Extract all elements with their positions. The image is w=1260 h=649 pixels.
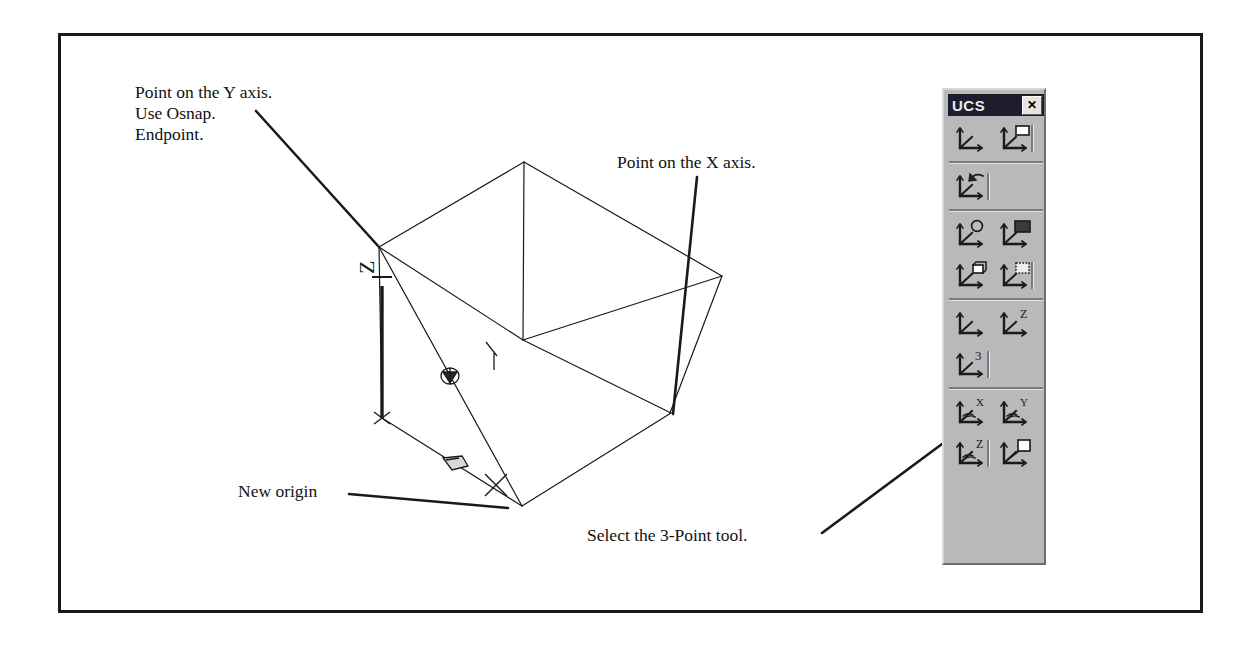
toolbar-separator [949,387,1043,390]
ucs-origin-button[interactable] [948,303,992,344]
box-edge [523,276,722,340]
leader-lines [256,111,942,533]
note-x-axis-leader [673,177,697,414]
ucs-toolbar-title: UCS [952,98,985,113]
box-edge [670,276,722,413]
blank-icon [997,171,1031,203]
toolbar-separator [949,298,1043,301]
note-y-axis-leader [256,111,379,247]
note-x-axis: Point on the X axis. [617,152,756,173]
box-edge [379,162,524,247]
svg-text:X: X [976,397,984,408]
toolbar-row: Z [948,303,1044,344]
toolbar-row [948,166,1044,207]
box-edge [523,340,671,413]
svg-text:Z: Z [1020,308,1027,321]
ucs-apply-button[interactable] [992,433,1036,474]
ucs-3point-icon: 3 [953,349,987,381]
note-3point-tool-leader [822,444,942,533]
ucs-face-button[interactable] [948,255,992,296]
toolbar-vertical-separator [1031,125,1034,152]
ucs-zaxis-vector-button[interactable]: Z [992,303,1036,344]
svg-text:3: 3 [975,349,982,363]
z-axis-stem [372,277,392,418]
toolbar-row: Z [948,433,1044,474]
note-3point-tool: Select the 3-Point tool. [587,525,747,546]
ucs-restore-button[interactable] [948,166,992,207]
ucs-world-globe-icon [953,219,987,251]
toolbar-vertical-separator [1031,262,1034,289]
toolbar-row [948,118,1044,159]
osnap-marker [441,368,459,384]
ucs-zaxis-vector-icon: Z [997,308,1031,340]
toolbar-row [948,214,1044,255]
toolbar-row: 3 [948,344,1044,385]
ucs-toolbar[interactable]: UCS ✕ Z3XYZ [942,88,1046,565]
toolbar-separator [949,209,1043,212]
blank-icon [997,349,1031,381]
toolbar-group [948,214,1044,296]
toolbar-group [948,166,1044,207]
wireframe-edges [379,162,722,506]
toolbar-separator [949,161,1043,164]
box-edge [523,162,524,340]
z-axis-label: Z [354,261,379,274]
ucs-rotate-x-button[interactable]: X [948,392,992,433]
ucs-empty-2 [992,344,1036,385]
ucs-origin-icon [953,308,987,340]
cursor-arrow [443,456,468,470]
ucs-3point-button[interactable]: 3 [948,344,992,385]
toolbar-row: XY [948,392,1044,433]
ucs-object-button[interactable] [992,214,1036,255]
box-edge [379,247,523,340]
ucs-rotate-y-icon: Y [997,397,1031,429]
ucs-toolbar-body: Z3XYZ [948,118,1044,563]
ucs-apply-icon [997,438,1031,470]
ucs-previous-button[interactable] [992,118,1036,159]
ucs-toolbar-titlebar[interactable]: UCS ✕ [948,94,1044,116]
ucs-rotate-z-icon: Z [953,438,987,470]
svg-text:Z: Z [354,261,379,274]
ucs-face-icon [953,260,987,292]
toolbar-vertical-separator [987,440,990,467]
note-new-origin-leader [349,494,508,508]
toolbar-vertical-separator [987,173,990,200]
ucs-rotate-y-button[interactable]: Y [992,392,1036,433]
box-edge [522,413,671,506]
ucs-world-globe-button[interactable] [948,214,992,255]
toolbar-group: Z3 [948,303,1044,385]
ucs-previous-icon [997,123,1031,155]
svg-text:Y: Y [1020,397,1028,408]
ucs-rotate-z-button[interactable]: Z [948,433,992,474]
ucs-view-button[interactable] [992,255,1036,296]
ucs-empty-1 [992,166,1036,207]
ucs-world-button[interactable] [948,118,992,159]
ucs-world-icon [953,123,987,155]
ucs-view-icon [997,260,1031,292]
note-y-axis: Point on the Y axis. Use Osnap. Endpoint… [135,82,272,145]
ucs-restore-icon [953,171,987,203]
toolbar-vertical-separator [987,351,990,378]
ucs-rotate-x-icon: X [953,397,987,429]
screenshot-root: Z Point on the Y axis. Use Os [0,0,1260,649]
svg-text:Z: Z [976,438,983,451]
toolbar-row [948,255,1044,296]
tick-marker-right [486,342,497,370]
toolbar-group [948,118,1044,159]
close-icon[interactable]: ✕ [1022,96,1042,115]
note-new-origin: New origin [238,481,317,502]
ucs-object-icon [997,219,1031,251]
toolbar-group: XYZ [948,392,1044,474]
